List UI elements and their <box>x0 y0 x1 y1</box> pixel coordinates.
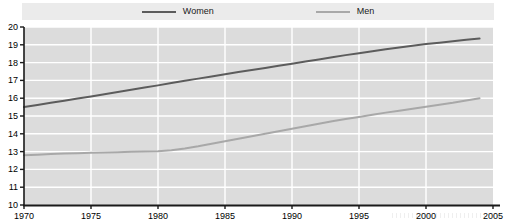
y-tick-label: 14 <box>0 130 18 139</box>
legend-label-men: Men <box>357 7 375 16</box>
x-tick-label: 1990 <box>272 212 312 221</box>
legend-label-women: Women <box>183 7 214 16</box>
scan-artifact <box>392 213 504 218</box>
y-tick-label: 13 <box>0 148 18 157</box>
y-tick-label: 16 <box>0 94 18 103</box>
x-tick-label: 1970 <box>4 212 44 221</box>
y-tick-label: 20 <box>0 23 18 32</box>
y-tick-label: 19 <box>0 41 18 50</box>
x-tick-label: 1995 <box>339 212 379 221</box>
y-tick-label: 10 <box>0 201 18 210</box>
line-swatch-icon <box>142 11 176 13</box>
line-swatch-icon <box>316 11 350 13</box>
x-tick-label: 1975 <box>71 212 111 221</box>
chart-legend: Women Men <box>22 3 494 20</box>
legend-item-men[interactable]: Men <box>316 7 375 16</box>
plot-area: 1011121314151617181920 19701975198019851… <box>0 20 506 222</box>
y-tick-label: 15 <box>0 112 18 121</box>
y-tick-label: 11 <box>0 183 18 192</box>
chart-figure: Women Men 1011121314151617181920 1970197… <box>0 0 506 222</box>
y-tick-label: 12 <box>0 165 18 174</box>
legend-item-women[interactable]: Women <box>142 7 214 16</box>
y-tick-label: 17 <box>0 76 18 85</box>
chart-canvas <box>0 20 506 222</box>
x-tick-label: 1985 <box>205 212 245 221</box>
x-tick-label: 1980 <box>138 212 178 221</box>
y-tick-label: 18 <box>0 59 18 68</box>
